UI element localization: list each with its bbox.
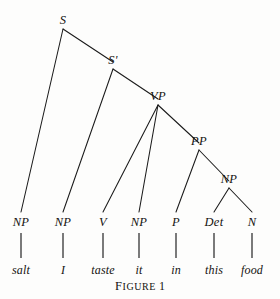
node-label-S: S — [60, 14, 67, 27]
terminal-word-in: in — [171, 264, 181, 276]
node-label-NP2: NP — [55, 216, 72, 229]
terminal-word-taste: taste — [91, 264, 115, 276]
node-label-Sbar: S' — [108, 54, 118, 67]
terminal-stems — [21, 233, 252, 258]
terminal-word-this: this — [205, 264, 223, 276]
branch-NPdet-to-N — [229, 188, 252, 212]
branch-NPdet-to-Det — [214, 188, 229, 212]
terminal-word-food: food — [241, 264, 263, 276]
node-label-P: P — [172, 216, 180, 229]
node-label-PP: PP — [191, 135, 207, 148]
branch-VP-to-V — [103, 105, 158, 212]
branch-lines — [21, 29, 252, 212]
branch-PP-to-P — [176, 150, 199, 212]
figure-caption: FIGURE 1 — [0, 279, 280, 294]
node-label-NPdet: NP — [221, 173, 238, 186]
node-label-NP1: NP — [13, 216, 30, 229]
terminal-word-salt: salt — [12, 264, 30, 276]
figure-caption-word: FIGURE — [115, 280, 159, 292]
branch-S-to-NP1 — [21, 29, 63, 212]
tree-branch-layer — [0, 0, 280, 299]
node-label-V: V — [99, 216, 107, 229]
branch-Sbar-to-NP2 — [63, 69, 113, 212]
branch-S-to-Sbar — [63, 29, 113, 62]
node-label-Det: Det — [205, 216, 224, 229]
node-label-N: N — [248, 216, 257, 229]
branch-VP-to-NP3 — [139, 105, 158, 212]
figure-caption-number: 1 — [159, 279, 165, 293]
syntax-tree-figure: SS'VPPPNPNPNPVNPPDetN saltItasteitinthis… — [0, 0, 280, 299]
node-label-VP: VP — [150, 90, 166, 103]
node-label-NP3: NP — [131, 216, 148, 229]
terminal-word-it: it — [135, 264, 142, 276]
terminal-word-I: I — [61, 264, 65, 276]
